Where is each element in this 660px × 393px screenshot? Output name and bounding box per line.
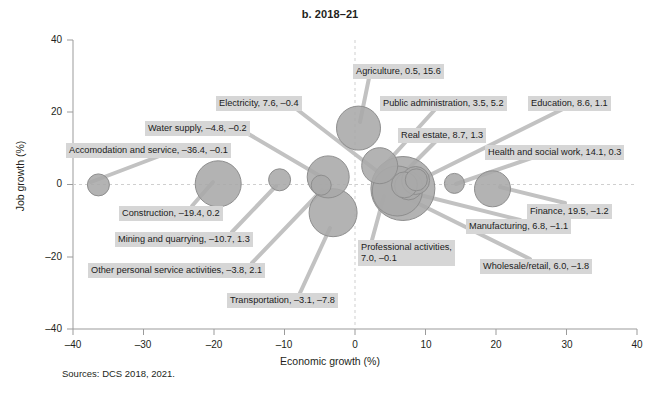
point-label-electricity: Electricity, 7.6, –0.4: [216, 96, 302, 111]
source-note: Sources: DCS 2018, 2021.: [62, 368, 175, 379]
bubble-public-administration[interactable]: [362, 148, 398, 184]
point-label-construction: Construction, –19.4, 0.2: [119, 206, 223, 221]
y-axis-label: Job growth (%): [14, 116, 26, 236]
point-label-transportation: Transportation, –3.1, –7.8: [227, 293, 338, 308]
x-tick-neg10: –10: [269, 339, 299, 350]
bubble-finance[interactable]: [475, 171, 511, 207]
chart-title: b. 2018–21: [0, 8, 660, 20]
point-label-manufacturing: Manufacturing, 6.8, –1.1: [466, 219, 571, 234]
x-tick-40: 40: [622, 339, 652, 350]
bubble-real-estate[interactable]: [405, 169, 427, 191]
zero-gridlines: [73, 40, 637, 329]
x-tick-0: 0: [340, 339, 370, 350]
point-label-finance: Finance, 19.5, –1.2: [527, 204, 612, 219]
x-tick-20: 20: [481, 339, 511, 350]
x-tick-neg20: –20: [199, 339, 229, 350]
x-tick-10: 10: [411, 339, 441, 350]
x-tick-neg40: –40: [58, 339, 88, 350]
bubble-agriculture[interactable]: [337, 106, 381, 150]
x-tick-neg30: –30: [128, 339, 158, 350]
bubble-accomodation-and-service[interactable]: [87, 174, 109, 196]
y-tick-20: 20: [42, 106, 62, 117]
point-label-accomodation-and-service: Accomodation and service, –36.4, –0.1: [66, 143, 231, 158]
point-label-mining-and-quarrying: Mining and quarrying, –10.7, 1.3: [115, 232, 253, 247]
y-tick-0: 0: [42, 178, 62, 189]
y-tick-40: 40: [42, 34, 62, 45]
point-label-water-supply: Water supply, –4.8, –0.2: [145, 121, 250, 136]
bubble-chart-figure: [0, 0, 660, 393]
bubble-health-and-social-work[interactable]: [444, 173, 464, 193]
point-label-health-and-social-work: Health and social work, 14.1, 0.3: [485, 145, 624, 160]
point-label-other-personal-service-activities: Other personal service activities, –3.8,…: [88, 263, 265, 278]
point-label-agriculture: Agriculture, 0.5, 15.6: [353, 64, 444, 79]
point-label-real-estate: Real estate, 8.7, 1.3: [398, 128, 486, 143]
point-label-wholesale-retail: Wholesale/retail, 6.0, –1.8: [480, 259, 592, 274]
point-label-education: Education, 8.6, 1.1: [528, 96, 611, 111]
bubble-mining-and-quarrying[interactable]: [269, 169, 291, 191]
x-tick-30: 30: [552, 339, 582, 350]
bubble-construction[interactable]: [195, 161, 241, 207]
plot-axes: [67, 40, 637, 335]
y-tick-neg40: –40: [38, 323, 62, 334]
point-label-public-administration: Public administration, 3.5, 5.2: [380, 96, 507, 111]
bubble-water-supply[interactable]: [311, 175, 331, 195]
x-axis-label: Economic growth (%): [0, 355, 660, 367]
point-label-professional-activities: Professional activities, 7.0, –0.1: [358, 240, 455, 266]
y-tick-neg20: –20: [38, 251, 62, 262]
